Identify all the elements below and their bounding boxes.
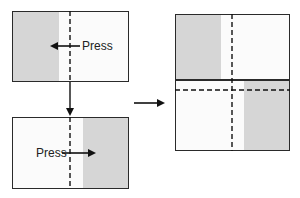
diagram-lines xyxy=(0,0,300,198)
